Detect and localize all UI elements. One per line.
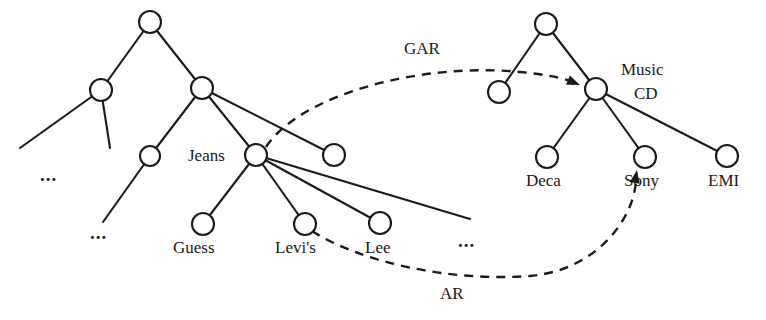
tree-edge xyxy=(596,89,727,156)
tree-edge xyxy=(101,22,150,90)
node-label: EMI xyxy=(708,172,739,190)
node-label: Music xyxy=(621,61,664,79)
ellipsis-label: ... xyxy=(458,232,475,250)
node-circle[interactable] xyxy=(323,144,345,166)
tree-edge-open xyxy=(20,90,101,148)
node-label: Jeans xyxy=(188,147,225,165)
tree-edge xyxy=(203,155,256,224)
relation-gar-arrowhead xyxy=(566,75,582,89)
diagram-canvas xyxy=(0,0,766,320)
node-label: Sony xyxy=(624,172,659,190)
relation-ar-label: AR xyxy=(440,285,464,303)
tree-edge xyxy=(150,22,202,88)
tree-edge xyxy=(547,89,596,157)
tree-edge xyxy=(256,155,380,223)
tree-edge xyxy=(256,155,305,224)
relation-gar-path[interactable] xyxy=(266,70,578,147)
edge-layer xyxy=(20,22,727,224)
node-label: Guess xyxy=(173,239,215,257)
tree-edge-open xyxy=(256,155,470,219)
node-circle[interactable] xyxy=(245,144,267,166)
node-circle[interactable] xyxy=(294,213,316,235)
node-circle[interactable] xyxy=(536,146,558,168)
tree-edge xyxy=(202,88,256,155)
node-label: Deca xyxy=(526,172,561,190)
relation-gar-label: GAR xyxy=(404,40,440,58)
node-circle[interactable] xyxy=(488,81,510,103)
node-circle[interactable] xyxy=(191,77,213,99)
node-circle[interactable] xyxy=(139,11,161,33)
node-label: CD xyxy=(634,85,658,103)
ellipsis-label: ... xyxy=(40,166,57,184)
node-label: Levi's xyxy=(275,239,316,257)
node-circle[interactable] xyxy=(585,78,607,100)
relation-layer xyxy=(266,70,642,277)
node-circle[interactable] xyxy=(634,146,656,168)
tree-edge xyxy=(499,24,546,92)
ellipsis-label: ... xyxy=(90,224,107,242)
node-circle[interactable] xyxy=(140,146,160,166)
concept-hierarchy-figure: JeansGuessLevi'sLeeMusicCDDecaSonyEMI...… xyxy=(0,0,766,320)
node-circle[interactable] xyxy=(90,79,112,101)
tree-edge-open xyxy=(103,156,150,222)
relation-ar-path[interactable] xyxy=(312,178,636,277)
node-circle[interactable] xyxy=(369,212,391,234)
node-circle[interactable] xyxy=(192,213,214,235)
node-circle[interactable] xyxy=(716,145,738,167)
node-circle[interactable] xyxy=(535,13,557,35)
node-label: Lee xyxy=(365,239,390,257)
